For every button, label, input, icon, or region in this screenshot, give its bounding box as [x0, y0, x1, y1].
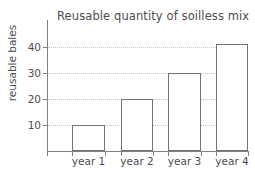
- bar-chart: Reusable quantity of soilless mix reusab…: [0, 0, 255, 172]
- bar-year-2: [121, 99, 153, 151]
- x-tick-label-year-2: year 2: [120, 156, 153, 168]
- x-tick-0: [47, 151, 48, 156]
- chart-title: Reusable quantity of soilless mix: [57, 9, 249, 23]
- y-tick-label-40: 40: [22, 42, 41, 53]
- bar-year-3: [168, 73, 201, 151]
- y-axis-label: reusable bales: [6, 18, 18, 108]
- bar-year-1: [72, 125, 105, 151]
- y-tick-label-20: 20: [22, 94, 41, 105]
- x-tick-label-year-1: year 1: [72, 156, 105, 168]
- y-axis-line: [47, 20, 48, 152]
- x-tick-label-year-3: year 3: [168, 156, 201, 168]
- x-axis-line: [47, 151, 248, 152]
- x-tick-label-year-4: year 4: [215, 156, 248, 168]
- bar-year-4: [216, 44, 248, 151]
- y-tick-label-10: 10: [22, 120, 41, 131]
- y-tick-label-30: 30: [22, 68, 41, 79]
